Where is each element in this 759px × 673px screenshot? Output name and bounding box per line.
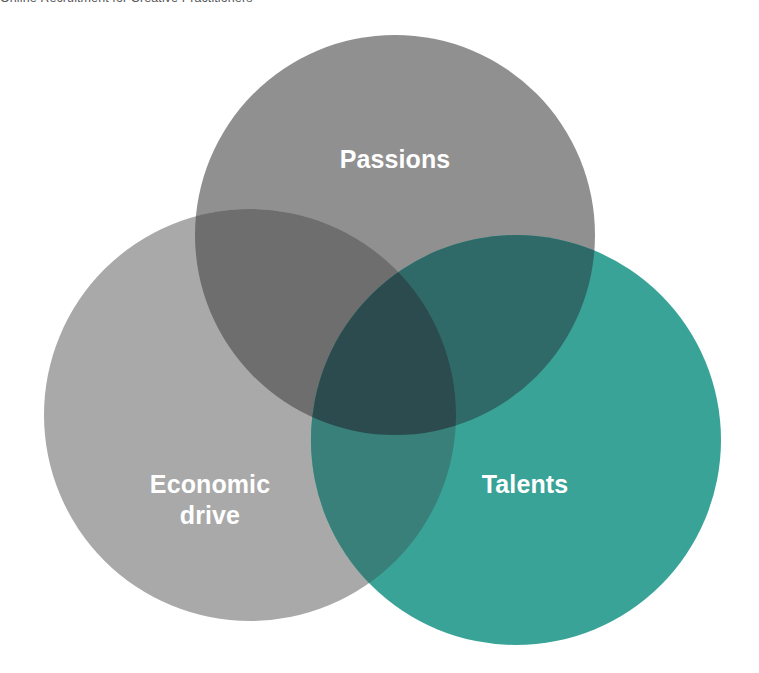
venn-label-passions: Passions <box>295 144 495 175</box>
venn-label-economic-drive: Economic drive <box>110 469 310 531</box>
venn-label-talents: Talents <box>425 469 625 500</box>
figure-caption: Online Recruitment for Creative Practiti… <box>0 0 759 11</box>
venn-canvas <box>0 14 759 673</box>
venn-diagram: Passions Economic drive Talents <box>0 14 759 673</box>
